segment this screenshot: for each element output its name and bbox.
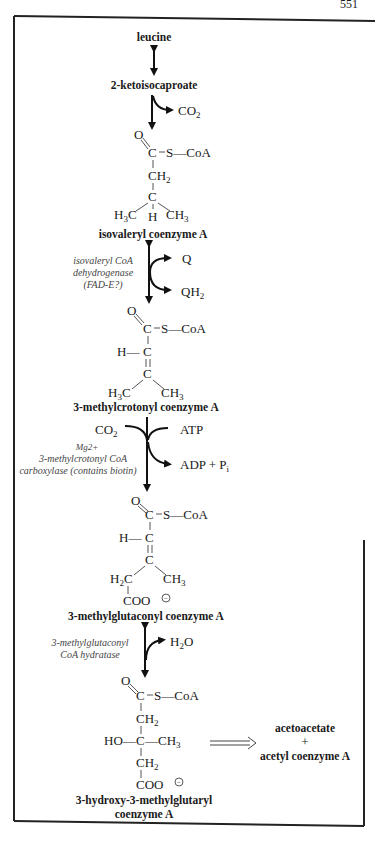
svg-text:O: O xyxy=(121,673,130,688)
co2-product: CO2 xyxy=(178,103,201,120)
figure-frame xyxy=(14,16,375,826)
svg-text:CH2: CH2 xyxy=(136,711,159,728)
svg-text:S—CoA: S—CoA xyxy=(161,321,206,336)
svg-text:O: O xyxy=(131,493,140,508)
svg-text:−: − xyxy=(177,779,181,787)
svg-text:CH3: CH3 xyxy=(161,385,184,402)
qh2-cofactor: QH2 xyxy=(181,284,204,301)
enzyme-label-hydratase: 3-methylglutaconyl CoA hydratase xyxy=(50,637,128,660)
svg-text:COO: COO xyxy=(123,593,150,608)
svg-text:O: O xyxy=(127,303,136,318)
svg-text:C: C xyxy=(143,321,152,336)
compound-3-methylglutaconyl-coa: 3-methylglutaconyl coenzyme A xyxy=(68,610,225,623)
co2-release-arrow-icon xyxy=(153,96,170,110)
h2o-substrate: H2O xyxy=(170,634,193,651)
product-acetoacetate: acetoacetate xyxy=(275,722,335,734)
svg-text:C: C xyxy=(148,145,157,160)
svg-text:Mg2+: Mg2+ xyxy=(75,442,99,452)
svg-text:CH2: CH2 xyxy=(136,755,159,772)
svg-text:C: C xyxy=(143,344,152,359)
svg-text:COO: COO xyxy=(136,777,163,792)
q-cofactor: Q xyxy=(182,251,192,266)
svg-text:CoA hydratase: CoA hydratase xyxy=(60,649,120,660)
open-double-arrow-icon xyxy=(210,737,256,749)
compound-3-methylcrotonyl-coa: 3-methylcrotonyl coenzyme A xyxy=(73,401,219,414)
atp-input-arrow-icon xyxy=(148,428,168,440)
compound-leucine: leucine xyxy=(137,31,172,43)
compound-hmg-coa-line1: 3-hydroxy-3-methylglutaryl xyxy=(76,794,213,807)
co2-substrate: CO2 xyxy=(95,422,118,439)
svg-text:3-methylcrotonyl CoA: 3-methylcrotonyl CoA xyxy=(38,453,128,464)
atp-substrate: ATP xyxy=(180,422,203,437)
svg-text:isovaleryl CoA: isovaleryl CoA xyxy=(73,255,134,266)
h2o-input-arrow-icon xyxy=(146,640,162,660)
q-input-arrow-icon xyxy=(150,258,168,272)
svg-text:dehydrogenase: dehydrogenase xyxy=(73,267,134,278)
svg-text:C: C xyxy=(136,688,145,703)
adp-output-arrow-icon xyxy=(148,442,168,464)
svg-text:CH3: CH3 xyxy=(166,207,189,224)
qh2-output-arrow-icon xyxy=(150,272,168,290)
svg-text:CH2: CH2 xyxy=(148,168,171,185)
adp-pi-product: ADP + Pi xyxy=(180,457,230,474)
svg-text:3-methylglutaconyl: 3-methylglutaconyl xyxy=(50,637,128,648)
svg-text:C: C xyxy=(145,552,154,567)
compound-2-ketoisocaproate: 2-ketoisocaproate xyxy=(111,79,198,92)
structure-3-methylcrotonyl-coa: O C S—CoA H— C C H3C CH3 xyxy=(108,303,206,402)
svg-text:C: C xyxy=(145,507,154,522)
page-number: 551 xyxy=(340,0,358,11)
svg-text:carboxylase (contains biotin): carboxylase (contains biotin) xyxy=(19,465,137,477)
structure-hmg-coa: O C S—CoA CH2 HO— C —CH3 CH2 COO − xyxy=(104,673,199,792)
product-acetyl-coa: acetyl coenzyme A xyxy=(260,750,351,763)
svg-text:−: − xyxy=(164,595,168,603)
svg-text:S—CoA: S—CoA xyxy=(166,145,211,160)
svg-text:C: C xyxy=(148,189,157,204)
svg-text:H—: H— xyxy=(117,344,140,359)
svg-text:H: H xyxy=(148,209,157,224)
svg-text:H3C: H3C xyxy=(108,385,131,402)
enzyme-label-dehydrogenase: isovaleryl CoA dehydrogenase (FAD-E?) xyxy=(73,255,134,291)
enzyme-label-carboxylase: Mg2+ 3-methylcrotonyl CoA carboxylase (c… xyxy=(19,442,137,477)
svg-text:C: C xyxy=(143,366,152,381)
structure-3-methylglutaconyl-coa: O C S—CoA H— C C H2C CH3 COO − xyxy=(110,493,208,608)
svg-text:HO—: HO— xyxy=(104,733,137,748)
svg-text:C: C xyxy=(136,733,145,748)
compound-isovaleryl-coa: isovaleryl coenzyme A xyxy=(99,228,208,241)
compound-hmg-coa-line2: coenzyme A xyxy=(115,808,174,821)
svg-text:(FAD-E?): (FAD-E?) xyxy=(83,279,123,291)
plus-sign: + xyxy=(301,734,308,749)
svg-text:—CH3: —CH3 xyxy=(144,733,181,750)
svg-text:H3C: H3C xyxy=(114,207,137,224)
svg-text:H2C: H2C xyxy=(110,571,133,588)
co2-input-arrow-icon xyxy=(125,426,147,440)
svg-text:S—CoA: S—CoA xyxy=(154,688,199,703)
svg-text:C: C xyxy=(145,530,154,545)
svg-text:CH3: CH3 xyxy=(163,571,186,588)
svg-text:O: O xyxy=(134,127,143,142)
leucine-degradation-figure: 551 leucine 2-ketoisocaproate CO2 O C S—… xyxy=(0,0,375,845)
svg-text:S—CoA: S—CoA xyxy=(163,507,208,522)
structure-isovaleryl-coa: O C S—CoA CH2 C H3C H CH3 xyxy=(114,127,211,224)
svg-text:H—: H— xyxy=(119,530,142,545)
